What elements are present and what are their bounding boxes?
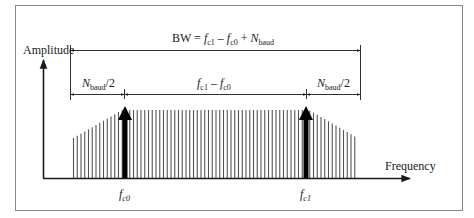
bandwidth-formula: BW = fc1 – fc0 + Nbaud — [172, 31, 274, 47]
right-half-baud-label: Nbaud/2 — [316, 76, 350, 92]
carrier-label-fc1: fc1 — [300, 187, 311, 203]
frequency-label: Frequency — [385, 159, 436, 173]
left-half-baud-label: Nbaud/2 — [81, 76, 115, 92]
carrier-label-fc0: fc0 — [119, 187, 130, 203]
carrier-separation-label: fc1 – fc0 — [197, 76, 231, 92]
bandwidth-diagram: Amplitude Frequency BW = fc1 – fc0 + Nba… — [0, 0, 474, 218]
spectral-lines — [74, 110, 355, 178]
carrier-arrow-fc1 — [299, 106, 313, 178]
amplitude-label: Amplitude — [23, 43, 74, 57]
